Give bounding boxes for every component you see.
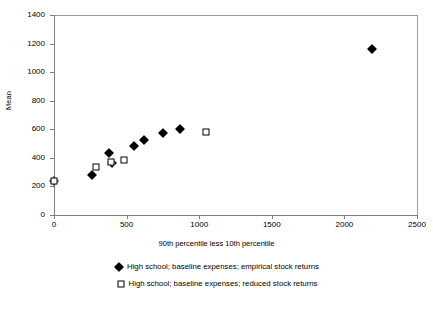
- x-tick-label: 1000: [179, 221, 219, 229]
- y-tick-label: 1000: [3, 68, 45, 76]
- data-point: [139, 135, 149, 145]
- data-point: [120, 156, 127, 163]
- x-tick-label: 2500: [397, 221, 433, 229]
- x-axis-line: [54, 215, 418, 216]
- y-tick-label: 1200: [3, 40, 45, 48]
- x-tick-mark: [417, 215, 418, 219]
- x-tick-mark: [344, 215, 345, 219]
- x-tick-label: 0: [34, 221, 74, 229]
- data-point: [158, 128, 168, 138]
- y-tick-label: 400: [3, 154, 45, 162]
- plot-area: [54, 15, 417, 215]
- data-point: [175, 124, 185, 134]
- y-tick-label: 1400: [3, 11, 45, 19]
- data-point: [87, 170, 97, 180]
- y-tick-label: 0: [3, 211, 45, 219]
- x-axis-label: 90th percentile less 10th percentile: [0, 239, 433, 248]
- x-tick-label: 2000: [324, 221, 364, 229]
- scatter-chart-figure: 0200400600800100012001400 05001000150020…: [0, 0, 433, 309]
- chart-legend: High school; baseline expenses; empirica…: [0, 258, 433, 292]
- x-tick-mark: [54, 215, 55, 219]
- legend-item: High school; baseline expenses; empirica…: [0, 258, 433, 275]
- data-point: [104, 148, 114, 158]
- data-point: [129, 141, 139, 151]
- y-tick-label: 600: [3, 125, 45, 133]
- data-point: [108, 159, 115, 166]
- filled-diamond-icon: [114, 262, 124, 272]
- plot-frame-right: [417, 15, 418, 216]
- open-square-icon: [116, 279, 126, 289]
- legend-item-label: High school; baseline expenses; reduced …: [129, 279, 318, 288]
- x-tick-label: 500: [107, 221, 147, 229]
- y-axis-label: Mean: [4, 81, 13, 121]
- data-point: [367, 44, 377, 54]
- data-point: [203, 128, 210, 135]
- legend-item: High school; baseline expenses; reduced …: [0, 275, 433, 292]
- x-tick-label: 1500: [252, 221, 292, 229]
- x-tick-mark: [199, 215, 200, 219]
- y-tick-label: 200: [3, 182, 45, 190]
- x-tick-mark: [272, 215, 273, 219]
- data-point: [93, 163, 100, 170]
- legend-item-label: High school; baseline expenses; empirica…: [127, 262, 319, 271]
- data-point: [51, 178, 58, 185]
- x-tick-mark: [127, 215, 128, 219]
